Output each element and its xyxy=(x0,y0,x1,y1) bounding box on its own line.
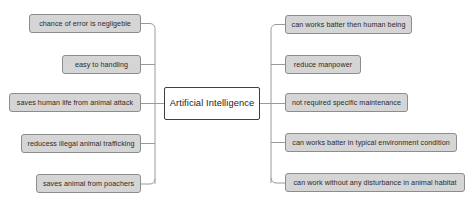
left-node-5[interactable]: saves animal from poachers xyxy=(36,174,141,193)
left-node-2[interactable]: easy to handling xyxy=(62,55,141,74)
left-spine-bottom-cap xyxy=(141,179,155,184)
left-spine-top-cap xyxy=(141,24,155,29)
mind-map-diagram: chance of error is negligeble easy to ha… xyxy=(0,0,472,203)
right-spine-top-cap xyxy=(271,25,285,30)
left-node-4[interactable]: reducess illegal animal trafficking xyxy=(21,134,141,153)
right-node-5[interactable]: can work without any disturbance in anim… xyxy=(285,173,465,192)
central-node[interactable]: Artificial Intelligence xyxy=(164,87,260,120)
right-node-3[interactable]: not required specific maintenance xyxy=(285,93,408,112)
right-spine-bottom-cap xyxy=(271,178,285,183)
right-node-2[interactable]: reduce manpower xyxy=(285,55,361,74)
right-node-1[interactable]: can works batter then human being xyxy=(285,15,412,34)
left-node-3[interactable]: saves human life from animal attack xyxy=(9,93,141,112)
right-node-4[interactable]: can works batter in typical environment … xyxy=(285,133,457,152)
left-node-1[interactable]: chance of error is negligeble xyxy=(29,14,141,33)
